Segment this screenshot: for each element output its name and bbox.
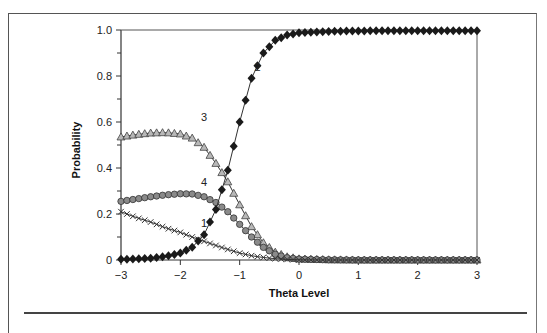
- x-axis-title: Theta Level: [269, 287, 330, 299]
- x-marker: [166, 226, 172, 232]
- circle-marker: [248, 234, 254, 240]
- x-marker: [160, 224, 166, 230]
- circle-marker: [260, 244, 266, 250]
- x-marker: [124, 211, 130, 217]
- curve-label-4: 4: [201, 176, 207, 188]
- curve-label-2: 2: [254, 61, 260, 73]
- circle-marker: [177, 191, 183, 197]
- x-tick-label: −2: [174, 269, 187, 281]
- circle-marker: [195, 192, 201, 198]
- y-axis-title: Probability: [70, 121, 82, 179]
- circle-marker: [165, 191, 171, 197]
- circle-marker: [159, 192, 165, 198]
- x-tick-label: 3: [474, 269, 480, 281]
- triangle-marker: [230, 189, 238, 196]
- circle-marker: [189, 191, 195, 197]
- circle-marker: [290, 255, 296, 261]
- series-2-line: [121, 31, 477, 260]
- circle-marker: [136, 195, 142, 201]
- x-marker: [154, 222, 160, 228]
- circle-marker: [266, 248, 272, 254]
- circle-marker: [278, 253, 284, 259]
- x-tick-label: 0: [296, 269, 302, 281]
- circle-marker: [207, 196, 213, 202]
- circle-marker: [201, 194, 207, 200]
- circle-marker: [183, 191, 189, 197]
- x-marker: [130, 214, 136, 220]
- series-4: [118, 191, 480, 264]
- x-marker: [172, 228, 178, 234]
- diamond-marker: [230, 142, 238, 151]
- x-marker: [213, 243, 219, 249]
- x-tick-label: −1: [233, 269, 246, 281]
- x-marker: [142, 217, 148, 223]
- diamond-marker: [289, 29, 297, 38]
- x-marker: [189, 234, 195, 240]
- circle-marker: [153, 193, 159, 199]
- circle-marker: [225, 209, 231, 215]
- x-tick-label: −3: [115, 269, 128, 281]
- x-marker: [183, 232, 189, 238]
- diamond-marker: [218, 185, 226, 194]
- circle-marker: [231, 215, 237, 221]
- circle-marker: [124, 197, 130, 203]
- y-tick-label: 0: [106, 254, 112, 266]
- circle-marker: [242, 227, 248, 233]
- diamond-marker: [206, 218, 214, 227]
- curve-label-1: 1: [201, 217, 207, 229]
- x-marker: [201, 239, 207, 245]
- y-tick-label: 0.8: [97, 70, 112, 82]
- x-marker: [207, 241, 213, 247]
- triangle-marker: [236, 201, 244, 208]
- diamond-marker: [170, 250, 178, 259]
- x-marker: [136, 216, 142, 222]
- y-tick-label: 0.2: [97, 208, 112, 220]
- triangle-marker: [248, 223, 256, 230]
- x-marker: [178, 230, 184, 236]
- y-tick-label: 0.4: [97, 162, 112, 174]
- x-marker: [225, 247, 231, 253]
- series-group: [117, 26, 481, 264]
- triangle-marker: [242, 212, 250, 219]
- diamond-marker: [248, 74, 256, 83]
- x-marker: [148, 219, 154, 225]
- curve-label-3: 3: [201, 111, 207, 123]
- circle-marker: [118, 198, 124, 204]
- diamond-marker: [236, 118, 244, 127]
- circle-marker: [147, 194, 153, 200]
- circle-marker: [236, 221, 242, 227]
- diamond-marker: [242, 96, 250, 105]
- y-tick-label: 0.6: [97, 116, 112, 128]
- circle-marker: [171, 191, 177, 197]
- x-marker: [231, 248, 237, 254]
- y-tick-label: 1.0: [97, 24, 112, 36]
- circle-marker: [130, 196, 136, 202]
- x-tick-label: 1: [355, 269, 361, 281]
- triangle-marker: [206, 151, 214, 158]
- circle-marker: [254, 239, 260, 245]
- diamond-marker: [164, 251, 172, 260]
- x-marker: [219, 245, 225, 251]
- circle-marker: [142, 194, 148, 200]
- diamond-marker: [473, 26, 481, 35]
- x-tick-label: 2: [415, 269, 421, 281]
- triangle-marker: [212, 159, 220, 166]
